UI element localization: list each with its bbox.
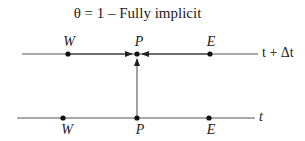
node-p-top — [134, 51, 139, 56]
node-e-bottom — [206, 115, 211, 120]
top-time-line — [22, 51, 258, 56]
label-e-bottom: E — [207, 122, 216, 138]
label-e-top: E — [207, 34, 216, 50]
time-label-bottom: t — [259, 109, 263, 125]
label-p-top: P — [135, 34, 144, 50]
label-w-bottom: W — [61, 122, 73, 138]
node-w-bottom — [60, 115, 65, 120]
node-w-top — [65, 51, 70, 56]
node-e-top — [207, 51, 212, 56]
node-p-bottom — [134, 115, 139, 120]
bottom-time-line — [17, 115, 255, 120]
label-p-bottom: P — [136, 122, 145, 138]
label-w-top: W — [63, 34, 75, 50]
time-label-top: t + Δt — [262, 45, 294, 61]
